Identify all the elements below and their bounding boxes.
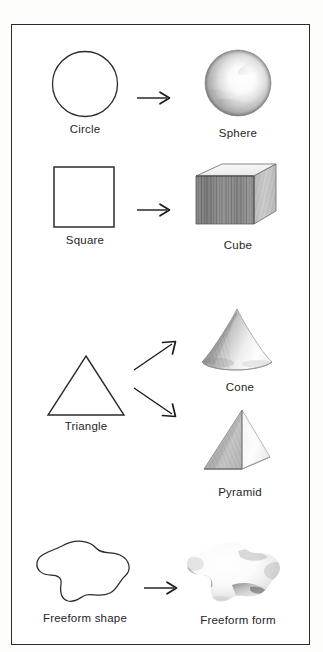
cone-shape bbox=[180, 305, 300, 377]
freeform-shape-label: Freeform shape bbox=[20, 613, 150, 625]
square-icon bbox=[30, 165, 140, 229]
diagram-frame: Circle bbox=[11, 24, 310, 645]
sphere-icon bbox=[178, 47, 298, 121]
pyramid-label: Pyramid bbox=[180, 487, 300, 499]
cube-icon bbox=[180, 161, 296, 233]
sphere-cell: Sphere bbox=[178, 47, 298, 140]
circle-label: Circle bbox=[25, 124, 145, 136]
cube-shape bbox=[180, 161, 296, 233]
cube-cell: Cube bbox=[180, 161, 296, 252]
triangle-label: Triangle bbox=[26, 421, 146, 433]
sphere-label: Sphere bbox=[178, 128, 298, 140]
arrow-right-icon-1 bbox=[136, 91, 176, 105]
row-freeform: Freeform shape bbox=[12, 533, 311, 643]
circle-shape bbox=[25, 49, 145, 119]
square-shape bbox=[30, 165, 140, 229]
circle-icon bbox=[25, 49, 145, 119]
arrow-right-icon-2 bbox=[136, 203, 176, 217]
freeform-form-label: Freeform form bbox=[172, 615, 304, 627]
arrow-up-right-icon bbox=[132, 339, 182, 373]
arrow-down-right-icon bbox=[132, 385, 182, 419]
triangle-icon bbox=[26, 353, 146, 419]
freeform-form-cell: Freeform form bbox=[172, 537, 304, 627]
pyramid-cell: Pyramid bbox=[180, 405, 300, 499]
sphere-shape bbox=[178, 47, 298, 121]
cone-label: Cone bbox=[180, 382, 300, 394]
cube-label: Cube bbox=[180, 240, 296, 252]
row-square-cube: Square bbox=[12, 155, 311, 275]
triangle-shape bbox=[26, 353, 146, 419]
freeform-form bbox=[172, 537, 304, 607]
pyramid-icon bbox=[180, 405, 300, 481]
pyramid-shape bbox=[180, 405, 300, 481]
square-label: Square bbox=[30, 235, 140, 247]
row-triangle-cone-pyramid: Triangle bbox=[12, 297, 311, 537]
cone-icon bbox=[180, 305, 300, 377]
freeform-blob-outline-icon bbox=[20, 539, 150, 607]
square-cell: Square bbox=[30, 165, 140, 247]
freeform-blob-shaded-icon bbox=[172, 537, 304, 607]
triangle-cell: Triangle bbox=[26, 353, 146, 433]
freeform-shape-cell: Freeform shape bbox=[20, 539, 150, 625]
cone-cell: Cone bbox=[180, 305, 300, 394]
circle-cell: Circle bbox=[25, 49, 145, 136]
freeform-shape bbox=[20, 539, 150, 607]
row-circle-sphere: Circle bbox=[12, 25, 311, 145]
